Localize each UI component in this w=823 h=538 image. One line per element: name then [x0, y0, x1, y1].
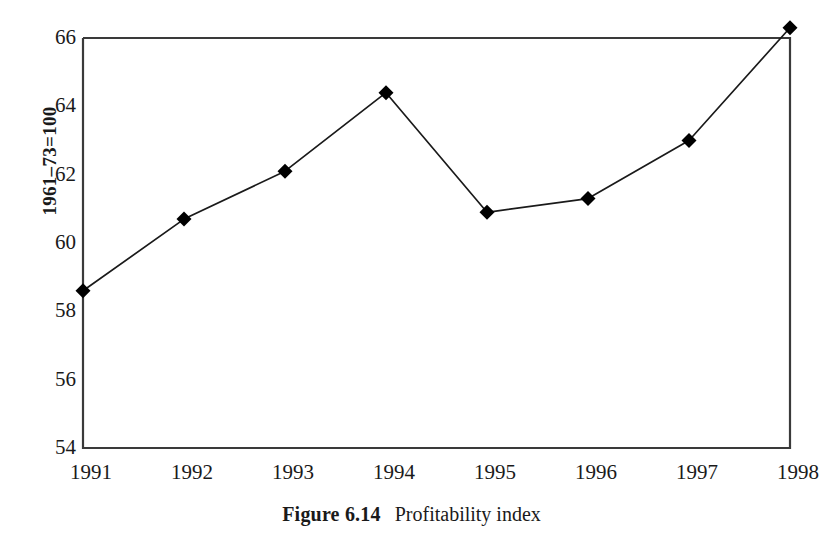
x-axis-tick-1992: 1992 [147, 461, 237, 483]
figure-caption-label: Figure 6.14 [282, 503, 381, 525]
x-axis-tick-1991: 1991 [46, 461, 136, 483]
x-axis-tick-1998: 1998 [753, 461, 823, 483]
chart-plot-area: 1961–73=100 66646260585654 1991199219931… [0, 0, 823, 496]
plot-frame [83, 38, 790, 448]
x-axis-tick-1996: 1996 [551, 461, 641, 483]
data-point-1993 [278, 164, 293, 179]
x-axis-tick-labels: 19911992199319941995199619971998 [0, 461, 823, 491]
data-point-1996 [581, 191, 596, 206]
x-axis-tick-1993: 1993 [248, 461, 338, 483]
data-point-1991 [76, 283, 91, 298]
data-series-group [83, 28, 790, 291]
line-chart-svg [0, 0, 823, 496]
series-line-profitability-index [83, 28, 790, 291]
figure-caption: Figure 6.14Profitability index [0, 503, 823, 526]
figure-caption-text: Profitability index [395, 503, 541, 525]
figure-container: 1961–73=100 66646260585654 1991199219931… [0, 0, 823, 538]
data-point-1992 [177, 212, 192, 227]
x-axis-tick-1995: 1995 [450, 461, 540, 483]
data-point-markers [76, 20, 798, 298]
x-axis-tick-1997: 1997 [652, 461, 742, 483]
plot-frame-border [83, 38, 790, 448]
x-axis-tick-1994: 1994 [349, 461, 439, 483]
